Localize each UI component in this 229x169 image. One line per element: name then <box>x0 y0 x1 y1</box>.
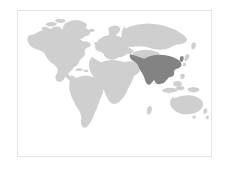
map-frame <box>17 10 212 157</box>
world-map-svg[interactable] <box>18 11 211 156</box>
world-map-widget: Highlighted <box>0 0 229 169</box>
